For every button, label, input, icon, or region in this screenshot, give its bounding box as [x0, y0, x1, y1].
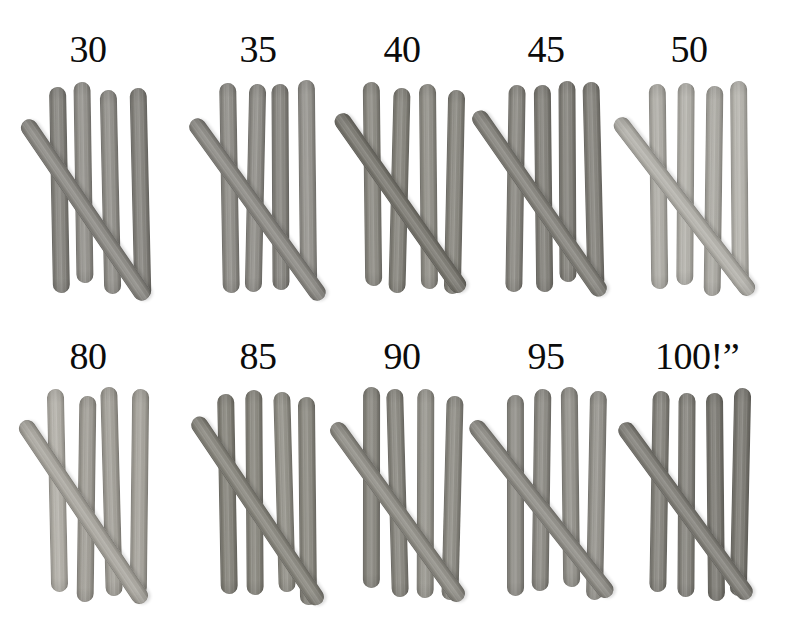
tally-group-85 [206, 392, 336, 596]
tally-group-40 [350, 85, 480, 291]
tally-count-label-30: 30 [70, 30, 107, 68]
tally-group-50 [637, 85, 767, 291]
tally-stick-vertical [130, 389, 149, 596]
tally-group-30 [35, 85, 165, 291]
tally-count-label-90: 90 [384, 337, 421, 375]
tally-group-90 [350, 392, 480, 596]
tally-stick-vertical [217, 394, 238, 594]
tally-group-80 [35, 392, 165, 596]
tally-group-100 [637, 392, 767, 596]
tally-count-label-85: 85 [240, 337, 277, 375]
tally-count-label-80: 80 [70, 337, 107, 375]
tally-count-label-35: 35 [240, 30, 277, 68]
tally-count-label-100: 100!” [655, 337, 739, 375]
tally-group-95 [492, 392, 622, 596]
tally-count-label-40: 40 [384, 30, 421, 68]
tally-group-45 [492, 85, 622, 291]
tally-count-label-50: 50 [671, 30, 708, 68]
tally-group-35 [206, 85, 336, 291]
tally-photo-canvas: 303540455080859095100!” [0, 0, 795, 624]
tally-count-label-45: 45 [528, 30, 565, 68]
tally-count-label-95: 95 [528, 337, 565, 375]
